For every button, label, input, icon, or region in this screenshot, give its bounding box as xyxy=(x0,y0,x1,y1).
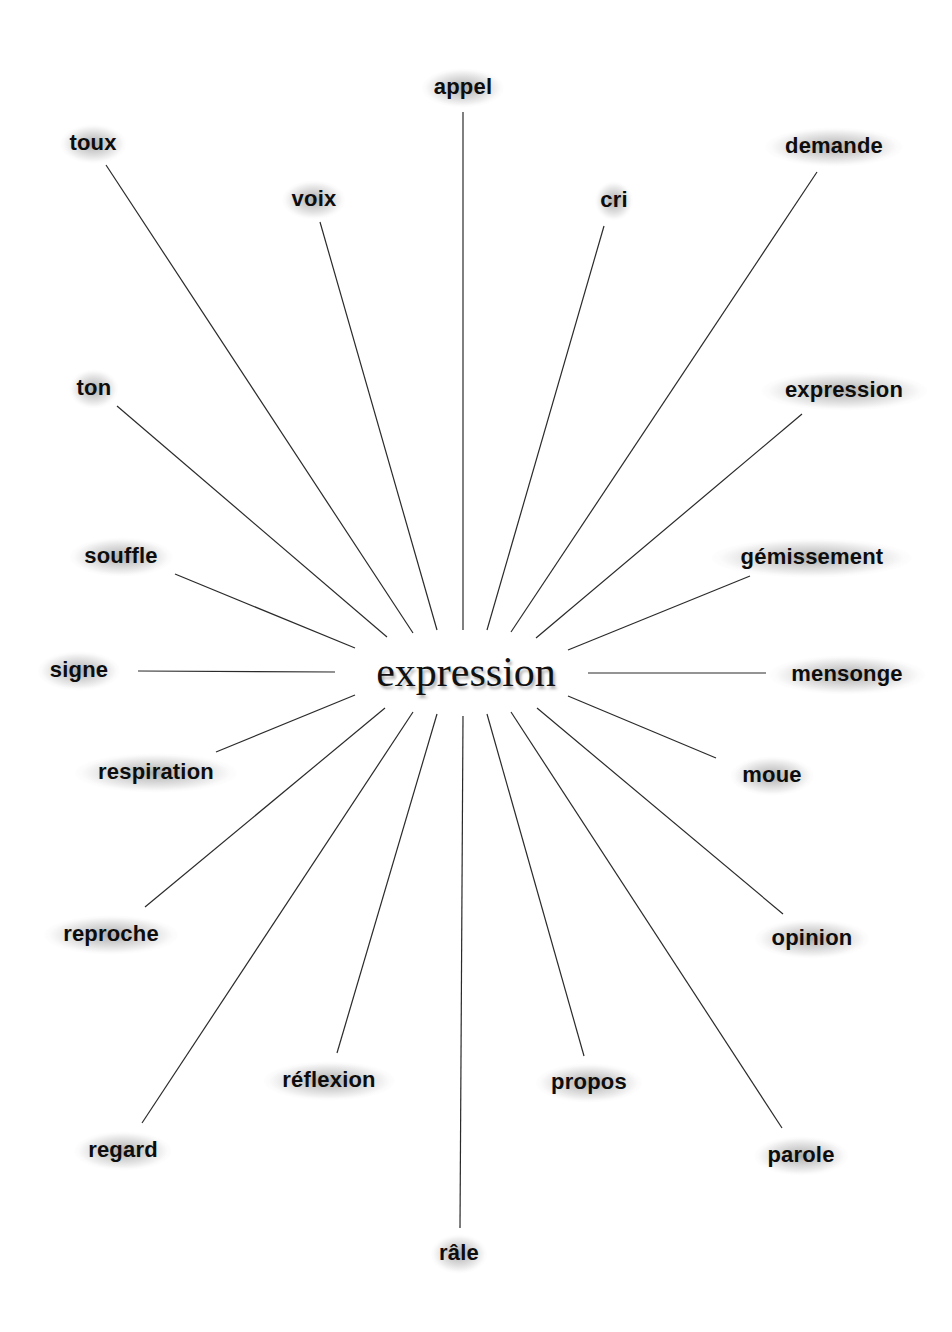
connector-line-moue xyxy=(568,696,716,758)
node-mensonge: mensonge xyxy=(791,661,903,687)
node-gemissement: gémissement xyxy=(741,544,884,570)
node-opinion: opinion xyxy=(772,925,853,951)
node-label: souffle xyxy=(84,543,158,568)
node-ton: ton xyxy=(77,375,112,401)
node-label: voix xyxy=(292,186,337,211)
node-label: gémissement xyxy=(741,544,884,569)
node-label: signe xyxy=(50,657,108,682)
connector-line-signe xyxy=(138,671,335,672)
node-toux: toux xyxy=(69,130,116,156)
node-demande: demande xyxy=(785,133,883,159)
connector-line-respiration xyxy=(216,695,355,752)
connector-line-expression-right xyxy=(536,414,802,638)
node-reproche: reproche xyxy=(63,921,159,947)
node-moue: moue xyxy=(742,762,801,788)
connector-line-cri xyxy=(487,226,604,630)
node-label: toux xyxy=(69,130,116,155)
node-label: propos xyxy=(551,1069,627,1094)
connector-line-reflexion xyxy=(337,714,437,1053)
node-label: cri xyxy=(600,187,628,212)
node-label: ton xyxy=(77,375,112,400)
node-respiration: respiration xyxy=(98,759,214,785)
center-word: expression xyxy=(376,648,556,696)
connector-line-opinion xyxy=(537,708,783,914)
node-reflexion: réflexion xyxy=(282,1067,376,1093)
node-label: regard xyxy=(88,1137,158,1162)
node-signe: signe xyxy=(50,657,108,683)
word-association-diagram: expression appeltouxvoixcridemandetonexp… xyxy=(0,0,952,1332)
node-expression-right: expression xyxy=(785,377,903,403)
node-label: reproche xyxy=(63,921,159,946)
node-label: opinion xyxy=(772,925,853,950)
node-label: râle xyxy=(439,1240,479,1265)
connector-line-reproche xyxy=(145,708,385,907)
connector-line-gemissement xyxy=(568,576,750,650)
node-regard: regard xyxy=(88,1137,158,1163)
node-label: parole xyxy=(767,1142,834,1167)
node-label: mensonge xyxy=(791,661,903,686)
node-cri: cri xyxy=(600,187,628,213)
node-label: moue xyxy=(742,762,801,787)
node-souffle: souffle xyxy=(84,543,158,569)
node-rale: râle xyxy=(439,1240,479,1266)
node-label: demande xyxy=(785,133,883,158)
node-label: réflexion xyxy=(282,1067,376,1092)
node-parole: parole xyxy=(767,1142,834,1168)
node-appel: appel xyxy=(434,74,492,100)
node-propos: propos xyxy=(551,1069,627,1095)
connector-line-rale xyxy=(460,716,463,1228)
node-label: expression xyxy=(785,377,903,402)
node-label: respiration xyxy=(98,759,214,784)
connector-line-voix xyxy=(320,222,437,630)
connector-line-propos xyxy=(487,714,584,1056)
node-voix: voix xyxy=(292,186,337,212)
node-label: appel xyxy=(434,74,492,99)
connector-line-ton xyxy=(117,406,387,637)
connector-line-souffle xyxy=(175,574,355,648)
